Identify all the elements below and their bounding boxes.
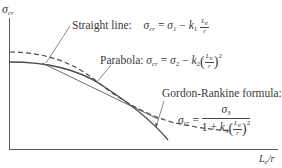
- e: e: [238, 121, 241, 129]
- equals: =: [158, 19, 165, 31]
- over-r: /r: [268, 153, 275, 164]
- minus: −: [182, 54, 189, 66]
- e: e: [205, 19, 208, 27]
- r: r: [200, 28, 209, 35]
- one-plus: 1 +: [202, 121, 217, 133]
- sub-2: 2: [176, 60, 180, 68]
- sub-1: 1: [173, 25, 177, 33]
- denominator: 1 + k3(Ler)2: [202, 119, 250, 137]
- gordon-rankine-formula: σcr = σ3 1 + k3(Ler)2: [178, 104, 250, 137]
- e: e: [210, 54, 213, 62]
- squared: 2: [247, 119, 251, 127]
- parabola-curve: [10, 62, 168, 140]
- gordon-leader: [156, 101, 164, 127]
- x-axis-label: Le/r: [259, 154, 274, 166]
- Le-over-r: Ler: [200, 18, 209, 35]
- r: r: [233, 130, 242, 137]
- straight-line-title: Straight line:: [72, 19, 132, 31]
- straight-line: [42, 63, 158, 119]
- cr-subscript: cr: [8, 9, 14, 17]
- equals: =: [161, 54, 168, 66]
- straight-line-formula: Straight line: σcr = σ1 − k1 Ler: [72, 18, 209, 35]
- squared: 2: [218, 52, 222, 60]
- parabola-formula: Parabola: σcr = σ2 − k2(Ler)2: [100, 53, 222, 70]
- cr: cr: [152, 60, 158, 68]
- gordon-fraction: σ3 1 + k3(Ler)2: [202, 104, 250, 137]
- parabola-title: Parabola:: [100, 54, 143, 66]
- r: r: [205, 63, 214, 70]
- y-axis-label: σcr: [2, 3, 14, 17]
- Le-over-r: Ler: [233, 120, 242, 137]
- sub-3: 3: [227, 109, 231, 117]
- cr: cr: [149, 25, 155, 33]
- sub-1: 1: [194, 25, 198, 33]
- straight-line-leader: [46, 26, 70, 63]
- minus: −: [179, 19, 186, 31]
- Le-over-r: Ler: [205, 53, 214, 70]
- equals: =: [192, 114, 199, 126]
- gordon-title: Gordon-Rankine formula:: [162, 87, 282, 99]
- numerator: σ3: [202, 104, 250, 119]
- gordon-rankine-title: Gordon-Rankine formula:: [162, 88, 282, 100]
- cr: cr: [184, 119, 190, 127]
